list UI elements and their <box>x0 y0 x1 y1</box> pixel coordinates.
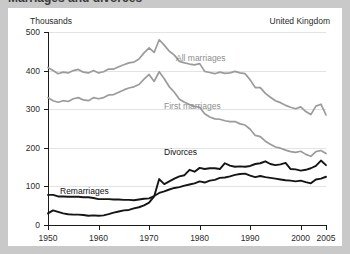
series-label-all-marriages: All marriages <box>176 53 226 63</box>
page-title: Marriages and divorces <box>8 0 142 5</box>
series-label-divorces: Divorces <box>164 147 197 157</box>
chart-panel: Thousands United Kingdom 500 400 300 200… <box>8 8 342 246</box>
series-lines <box>8 8 342 246</box>
line-first-marriages <box>48 72 326 157</box>
plot-area: 500 400 300 200 100 0 1950 1960 1970 198… <box>8 8 342 246</box>
series-label-remarriages: Remarriages <box>60 186 109 196</box>
figure-marriages-and-divorces: Marriages and divorces Thousands United … <box>0 0 350 254</box>
series-label-first-marriages: First marriages <box>164 101 221 111</box>
figure-title-strip: Marriages and divorces <box>0 0 350 8</box>
